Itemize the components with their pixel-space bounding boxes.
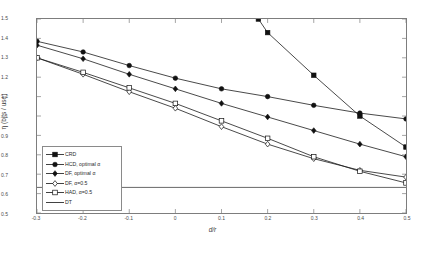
y-tick-label: 1 bbox=[0, 114, 8, 119]
legend-marker-icon bbox=[45, 179, 65, 188]
x-axis-label: d/r bbox=[0, 226, 425, 233]
x-tick-label: 0.1 bbox=[207, 216, 237, 221]
x-tick-label: 0.2 bbox=[253, 216, 283, 221]
y-tick-label: 1.5 bbox=[0, 16, 8, 21]
legend-item-2[interactable]: DF, optimal α bbox=[45, 169, 118, 179]
y-tick-label: 1.3 bbox=[0, 55, 8, 60]
x-tick-label: 0 bbox=[160, 216, 190, 221]
legend-item-5[interactable]: DT bbox=[45, 198, 118, 208]
legend-item-label: HAD, α=0.5 bbox=[65, 188, 92, 197]
legend-item-label: DF, optimal α bbox=[65, 169, 95, 178]
legend-marker-icon bbox=[45, 150, 65, 159]
legend-marker-icon bbox=[45, 169, 65, 178]
y-tick-label: 0.9 bbox=[0, 133, 8, 138]
x-tick-label: 0.4 bbox=[346, 216, 376, 221]
legend-item-1[interactable]: HCD, optimal α bbox=[45, 160, 118, 170]
y-tick-label: 0.7 bbox=[0, 172, 8, 177]
legend-marker-icon bbox=[45, 188, 65, 197]
y-tick-label: 0.8 bbox=[0, 153, 8, 158]
legend-marker-icon bbox=[45, 198, 65, 207]
figure-canvas: η (bits / use) 0.50.60.70.80.911.11.21.3… bbox=[0, 0, 425, 255]
series-1 bbox=[37, 39, 406, 121]
chart-legend[interactable]: CRDHCD, optimal αDF, optimal αDF, α=0.5H… bbox=[42, 146, 122, 211]
y-tick-label: 1.4 bbox=[0, 35, 8, 40]
legend-item-label: DT bbox=[65, 198, 72, 207]
x-tick-label: -0.3 bbox=[21, 216, 51, 221]
x-tick-label: -0.1 bbox=[114, 216, 144, 221]
legend-item-3[interactable]: DF, α=0.5 bbox=[45, 179, 118, 189]
legend-item-label: HCD, optimal α bbox=[65, 160, 100, 169]
series-2 bbox=[37, 42, 406, 159]
x-tick-label: 0.5 bbox=[392, 216, 422, 221]
legend-marker-icon bbox=[45, 160, 65, 169]
legend-item-4[interactable]: HAD, α=0.5 bbox=[45, 188, 118, 198]
series-0 bbox=[256, 19, 406, 149]
y-tick-label: 1.2 bbox=[0, 74, 8, 79]
y-tick-label: 0.5 bbox=[0, 212, 8, 217]
y-tick-label: 1.1 bbox=[0, 94, 8, 99]
y-axis-label: η (bits / use) bbox=[0, 94, 7, 130]
y-tick-label: 0.6 bbox=[0, 192, 8, 197]
x-tick-label: 0.3 bbox=[299, 216, 329, 221]
x-tick-label: -0.2 bbox=[67, 216, 97, 221]
legend-item-label: DF, α=0.5 bbox=[65, 179, 87, 188]
legend-item-label: CRD bbox=[65, 150, 76, 159]
legend-item-0[interactable]: CRD bbox=[45, 150, 118, 160]
